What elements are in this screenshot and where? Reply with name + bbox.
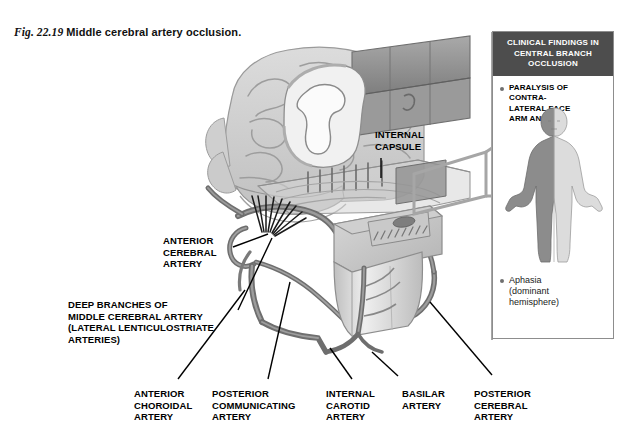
clinical-finding-aphasia-text: Aphasia (dominant hemisphere) (509, 275, 559, 308)
label-internal-capsule: INTERNAL CAPSULE (375, 129, 424, 152)
body-normal-half (554, 108, 602, 262)
label-anterior-cerebral-artery: ANTERIOR CEREBRAL ARTERY (163, 235, 217, 270)
body-hemiparesis-figure (493, 94, 615, 266)
label-basilar-artery: BASILAR ARTERY (402, 388, 445, 411)
clinical-findings-box: CLINICAL FINDINGS IN CENTRAL BRANCH OCCL… (492, 31, 614, 339)
label-anterior-choroidal-artery: ANTERIOR CHOROIDAL ARTERY (134, 388, 192, 423)
label-posterior-communicating-artery: POSTERIOR COMMUNICATING ARTERY (212, 388, 295, 423)
clinical-findings-header: CLINICAL FINDINGS IN CENTRAL BRANCH OCCL… (493, 32, 613, 76)
bullet-icon (500, 279, 504, 283)
label-internal-carotid-artery: INTERNAL CAROTID ARTERY (326, 388, 375, 423)
label-deep-branches-mca: DEEP BRANCHES OF MIDDLE CEREBRAL ARTERY … (68, 299, 214, 345)
bullet-icon (500, 87, 504, 91)
label-posterior-cerebral-artery: POSTERIOR CEREBRAL ARTERY (474, 388, 531, 423)
figure-page: Fig. 22.19 Middle cerebral artery occlus… (0, 0, 632, 444)
clinical-finding-aphasia: Aphasia (dominant hemisphere) (493, 268, 628, 308)
body-affected-half (506, 108, 554, 262)
